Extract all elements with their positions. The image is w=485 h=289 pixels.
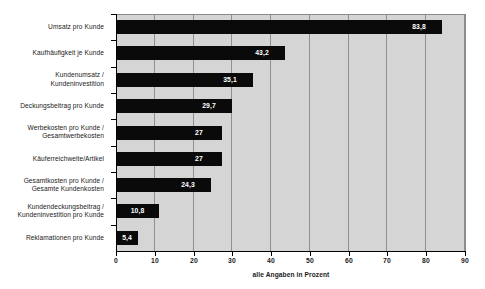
category-label-line: Reklamationen pro Kunde: [26, 234, 104, 243]
x-axis-tick: [310, 252, 311, 256]
x-axis-tick: [426, 252, 427, 256]
gridline: [309, 15, 310, 252]
x-axis-tick-label: 50: [298, 257, 322, 264]
category-axis-labels: Umsatz pro KundeKaufhäufigkeit je KundeK…: [0, 14, 110, 251]
category-label-line: Umsatz pro Kunde: [48, 23, 104, 32]
x-axis-tick: [271, 252, 272, 256]
category-label-line: Käuferreichweite/Artikel: [33, 155, 104, 164]
x-axis-tick: [155, 252, 156, 256]
category-label-line: Kundeninvestition: [51, 80, 104, 89]
bar-value-label: 27: [182, 126, 216, 140]
gridline: [425, 15, 426, 252]
gridline: [386, 15, 387, 252]
bar-value-label: 35,1: [213, 73, 247, 87]
category-label-line: Werbekosten pro Kunde /: [28, 124, 105, 133]
bar-value-label: 5,4: [119, 231, 135, 245]
bar-chart: Umsatz pro KundeKaufhäufigkeit je KundeK…: [0, 0, 485, 289]
x-axis-tick-label: 80: [414, 257, 438, 264]
bar-value-label: 24,3: [171, 178, 205, 192]
x-axis-tick: [116, 252, 117, 256]
category-label-line: Gesamte Kundenkosten: [32, 185, 104, 194]
category-label: Reklamationen pro Kunde: [0, 225, 104, 251]
x-axis-tick-label: 20: [182, 257, 206, 264]
y-axis-tick: [111, 14, 116, 15]
x-axis-tick: [387, 252, 388, 256]
bar-value-label: 83,8: [402, 20, 436, 34]
x-axis-tick-label: 70: [375, 257, 399, 264]
gridline: [348, 15, 349, 252]
bar-value-label: 10,8: [119, 204, 156, 218]
x-axis-tick-label: 0: [104, 257, 128, 264]
x-axis-tick: [194, 252, 195, 256]
y-axis-tick: [111, 119, 116, 120]
x-axis-tick: [349, 252, 350, 256]
category-label: Deckungsbeitrag pro Kunde: [0, 93, 104, 119]
bar-value-label: 43,2: [245, 46, 279, 60]
category-label: Käuferreichweite/Artikel: [0, 146, 104, 172]
y-axis-tick: [111, 225, 116, 226]
bar-value-label: 29,7: [192, 99, 226, 113]
y-axis-tick: [111, 172, 116, 173]
x-axis-tick: [232, 252, 233, 256]
category-label-line: Gesamtkosten pro Kunde /: [24, 177, 104, 186]
bar: [117, 20, 442, 34]
category-label: Kaufhäufigkeit je Kunde: [0, 40, 104, 66]
category-label: Umsatz pro Kunde: [0, 14, 104, 40]
bar-value-label: 27: [182, 152, 216, 166]
x-axis-tick: [465, 252, 466, 256]
category-label-line: Kundenumsatz /: [55, 71, 104, 80]
category-label: Gesamtkosten pro Kunde /Gesamte Kundenko…: [0, 172, 104, 198]
x-axis-tick-label: 60: [337, 257, 361, 264]
y-axis-tick: [111, 93, 116, 94]
category-label-line: Kundeninvestition pro Kunde: [18, 211, 104, 220]
x-axis-tick-label: 30: [220, 257, 244, 264]
y-axis-tick: [111, 146, 116, 147]
category-label-line: Kaufhäufigkeit je Kunde: [33, 49, 105, 58]
category-label-line: Kundendeckungsbeitrag /: [27, 203, 104, 212]
x-axis-line: [116, 251, 466, 252]
category-label: Werbekosten pro Kunde /Gesamtwerbekosten: [0, 119, 104, 145]
x-axis-tick-label: 40: [259, 257, 283, 264]
category-label: Kundendeckungsbeitrag /Kundeninvestition…: [0, 198, 104, 224]
category-label-line: Gesamtwerbekosten: [42, 132, 104, 141]
x-axis-tick-label: 10: [143, 257, 167, 264]
x-axis-tick-label: 90: [453, 257, 477, 264]
x-axis-caption: alle Angaben in Prozent: [116, 271, 466, 278]
y-axis-tick: [111, 67, 116, 68]
y-axis-tick: [111, 198, 116, 199]
category-label-line: Deckungsbeitrag pro Kunde: [20, 102, 104, 111]
y-axis-tick: [111, 40, 116, 41]
gridline: [464, 15, 465, 252]
category-label: Kundenumsatz /Kundeninvestition: [0, 67, 104, 93]
